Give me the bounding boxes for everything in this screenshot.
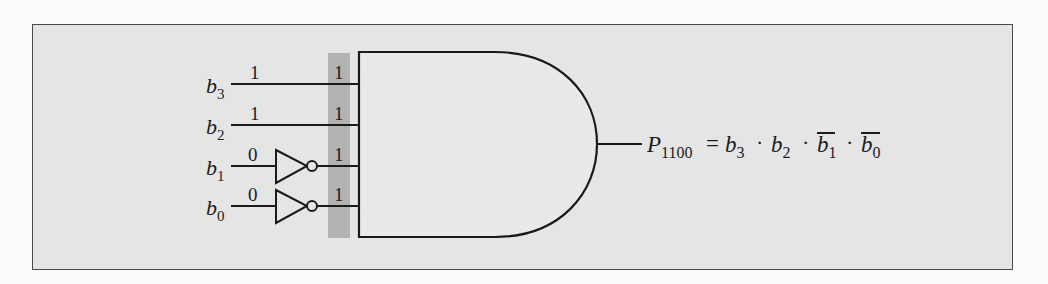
input-value: 0 — [248, 184, 258, 205]
input-label: b0 — [206, 195, 225, 224]
term-b3: b3 — [725, 132, 745, 161]
dot-operator: · — [756, 130, 763, 155]
term-b0-complement: b0 — [861, 132, 881, 161]
and-gate-icon — [359, 52, 597, 237]
equals-sign: = — [706, 131, 719, 156]
term-b2: b2 — [771, 132, 791, 161]
inverter-bubble-icon — [307, 201, 317, 211]
gate-input-value: 1 — [334, 103, 344, 124]
input-value: 1 — [250, 103, 260, 124]
term-b1-complement: b1 — [817, 132, 837, 161]
input-label: b1 — [206, 155, 225, 184]
input-label: b3 — [206, 73, 225, 102]
output-equation: P1100 = b3 · b2 · b1 · b0 — [646, 130, 881, 161]
inverter-icon — [276, 150, 307, 183]
gate-input-value: 1 — [334, 184, 344, 205]
gate-input-value: 1 — [334, 144, 344, 165]
and-gate-decoder-diagram: b3 1 1 b2 1 1 b1 0 1 b0 0 1 P1100 = b3 ·… — [0, 0, 1048, 284]
dot-operator: · — [802, 130, 809, 155]
input-value: 0 — [248, 144, 258, 165]
input-value: 1 — [250, 62, 260, 83]
input-label: b2 — [206, 114, 225, 143]
gate-input-value: 1 — [334, 62, 344, 83]
output-label: P1100 — [646, 132, 692, 161]
dot-operator: · — [846, 130, 853, 155]
inverter-icon — [276, 190, 307, 223]
inverter-bubble-icon — [307, 161, 317, 171]
